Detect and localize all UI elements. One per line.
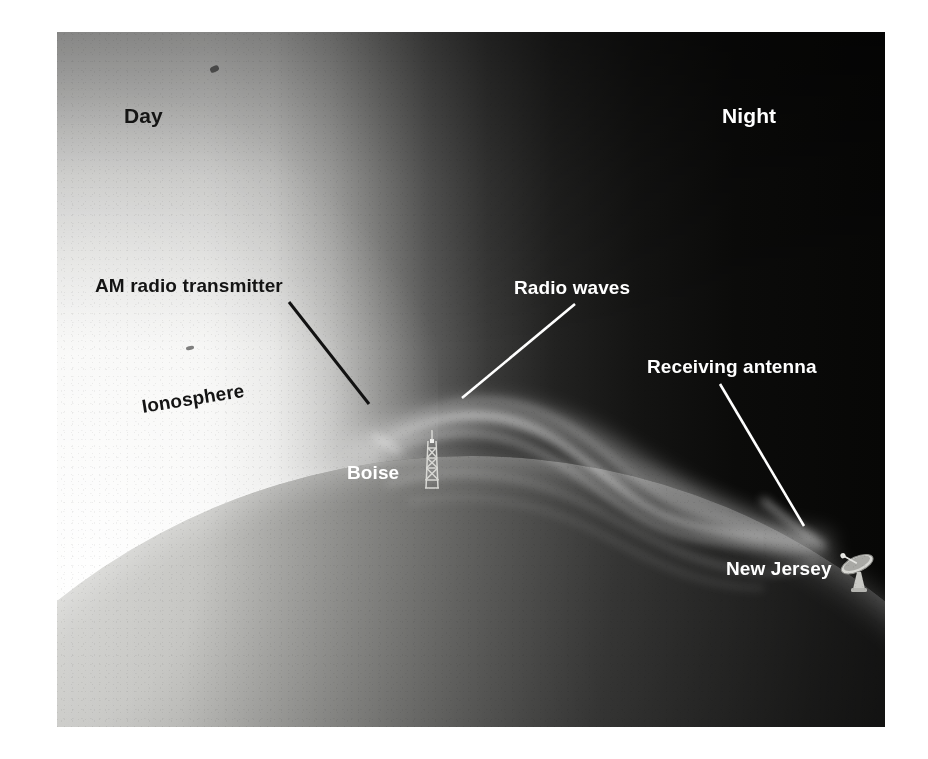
label-radio-waves: Radio waves bbox=[514, 277, 630, 299]
illustration-plate bbox=[57, 32, 885, 727]
label-receiving-antenna: Receiving antenna bbox=[647, 356, 817, 378]
figure-page: Day Night AM radio transmitter Ionospher… bbox=[0, 0, 928, 759]
label-new-jersey: New Jersey bbox=[726, 558, 832, 580]
label-boise: Boise bbox=[347, 462, 399, 484]
label-night: Night bbox=[722, 104, 776, 128]
label-day: Day bbox=[124, 104, 163, 128]
label-am-radio-transmitter: AM radio transmitter bbox=[95, 275, 283, 297]
scan-grain bbox=[57, 32, 885, 727]
